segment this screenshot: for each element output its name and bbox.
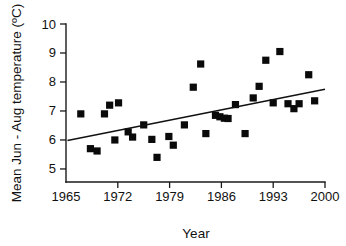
data-point — [224, 115, 231, 122]
data-point — [197, 60, 204, 67]
data-point — [111, 136, 118, 143]
data-point — [296, 100, 303, 107]
y-tick-label: 6 — [49, 132, 56, 147]
y-tick-label: 9 — [49, 45, 56, 60]
y-axis-group: 5678910 — [42, 17, 66, 183]
data-point — [87, 145, 94, 152]
data-point — [148, 136, 155, 143]
data-point — [101, 110, 108, 117]
x-tick-label: 1993 — [259, 189, 288, 204]
x-axis-group: 196519721979198619932000 — [52, 182, 340, 204]
data-point — [202, 130, 209, 137]
data-point — [93, 147, 100, 154]
data-point — [256, 83, 263, 90]
data-point — [311, 97, 318, 104]
y-tick-label: 5 — [49, 161, 56, 176]
data-point — [170, 142, 177, 149]
x-tick-label: 1979 — [155, 189, 184, 204]
data-point — [181, 121, 188, 128]
x-tick-label: 1972 — [103, 189, 132, 204]
y-axis-ticks — [60, 24, 66, 169]
data-point — [106, 102, 113, 109]
y-axis-title: Mean Jun - Aug temperature (ºC) — [9, 4, 24, 203]
x-tick-label: 1986 — [207, 189, 236, 204]
scatter-plot: 5678910 196519721979198619932000 Year Me… — [0, 0, 346, 246]
data-point — [262, 57, 269, 64]
x-axis-tick-labels: 196519721979198619932000 — [52, 189, 340, 204]
data-point — [115, 99, 122, 106]
data-point — [305, 71, 312, 78]
y-tick-label: 7 — [49, 103, 56, 118]
x-tick-label: 1965 — [52, 189, 81, 204]
x-tick-label: 2000 — [311, 189, 340, 204]
chart-container: 5678910 196519721979198619932000 Year Me… — [0, 0, 346, 246]
x-axis-ticks — [118, 182, 325, 188]
data-point — [165, 133, 172, 140]
y-tick-label: 8 — [49, 74, 56, 89]
data-point — [250, 94, 257, 101]
data-point — [129, 133, 136, 140]
data-point — [77, 110, 84, 117]
data-point — [276, 48, 283, 55]
data-point — [190, 84, 197, 91]
data-point — [241, 130, 248, 137]
y-axis-tick-labels: 5678910 — [42, 17, 56, 177]
y-tick-label: 10 — [42, 17, 56, 32]
data-point — [153, 154, 160, 161]
data-point-markers — [77, 48, 318, 161]
x-axis-title: Year — [182, 226, 210, 241]
